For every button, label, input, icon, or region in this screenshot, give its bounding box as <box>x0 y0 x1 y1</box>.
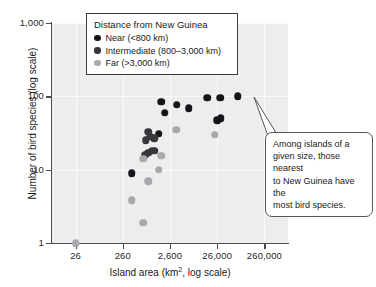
x-tick-mark <box>264 244 265 249</box>
x-tick-label: 26 <box>70 250 81 261</box>
data-point-far <box>72 239 80 247</box>
legend-label-intermediate: Intermediate (800–3,000 km) <box>106 46 222 56</box>
data-point-far <box>211 131 219 139</box>
legend-item-intermediate[interactable]: Intermediate (800–3,000 km) <box>94 46 230 56</box>
data-point-far <box>139 219 147 227</box>
callout-line-4: most bird species. <box>273 199 366 211</box>
x-tick-label: 260,000 <box>247 250 282 261</box>
x-tick-label: 2,600 <box>158 250 182 261</box>
data-point-near <box>161 109 169 117</box>
data-point-far <box>155 166 163 174</box>
x-tick-label: 26,000 <box>202 250 232 261</box>
x-tick-mark <box>217 244 218 249</box>
legend: Distance from New Guinea Near (<800 km) … <box>86 13 238 75</box>
callout-line-2: given size, those nearest <box>273 150 366 174</box>
y-tick-label: 1,000 <box>20 17 44 28</box>
y-tick-mark <box>46 170 52 171</box>
data-point-near <box>128 169 136 177</box>
legend-item-near[interactable]: Near (<800 km) <box>94 33 230 43</box>
x-axis-title-main: Island area (km <box>109 267 178 278</box>
data-point-far <box>139 155 147 163</box>
legend-marker-intermediate-icon <box>94 47 101 54</box>
data-point-near <box>204 94 212 102</box>
legend-label-far: Far (>3,000 km) <box>106 58 170 68</box>
data-point-far <box>158 152 166 160</box>
data-point-far <box>145 177 153 185</box>
y-tick-mark <box>46 243 52 244</box>
callout-line-3: to New Guinea have the <box>273 175 366 199</box>
data-point-near <box>217 115 225 123</box>
data-point-far <box>172 126 180 134</box>
callout-text: Among islands of a given size, those nea… <box>273 138 366 211</box>
y-tick-label: 1 <box>39 237 44 248</box>
legend-label-near: Near (<800 km) <box>106 33 169 43</box>
x-axis-title: Island area (km2, log scale) <box>52 266 288 278</box>
x-tick-label: 260 <box>115 250 131 261</box>
y-axis-line <box>51 22 52 244</box>
x-axis-title-tail: , log scale) <box>182 267 230 278</box>
x-tick-mark <box>123 244 124 249</box>
callout-annotation: Among islands of a given size, those nea… <box>265 132 373 217</box>
data-point-intermediate <box>147 133 155 141</box>
legend-item-far[interactable]: Far (>3,000 km) <box>94 58 230 68</box>
y-tick-mark <box>46 96 52 97</box>
legend-title: Distance from New Guinea <box>94 19 230 30</box>
data-point-far <box>128 197 136 205</box>
callout-line-1: Among islands of a <box>273 138 366 150</box>
y-axis-title: Number of bird species (log scale) <box>27 29 38 219</box>
gridline-vertical <box>76 23 77 243</box>
legend-marker-far-icon <box>94 60 101 67</box>
data-point-near <box>173 101 181 109</box>
y-tick-mark <box>46 23 52 24</box>
data-point-near <box>185 104 193 112</box>
data-point-near <box>234 93 242 101</box>
x-tick-mark <box>170 244 171 249</box>
data-point-near <box>216 94 224 102</box>
data-point-near <box>158 98 166 106</box>
bird-species-scatter-figure: 1101001,000 262602,60026,000260,000 Numb… <box>0 0 376 287</box>
legend-marker-near-icon <box>94 35 101 42</box>
